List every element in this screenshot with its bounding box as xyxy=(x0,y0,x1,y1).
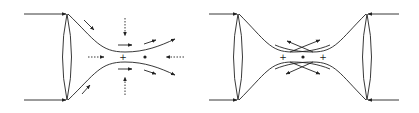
ray-arrow-right-top xyxy=(144,40,156,44)
beam-right-lower xyxy=(275,62,366,100)
single-beam-diagram xyxy=(24,14,184,100)
focus-plus-left: + xyxy=(279,52,287,62)
cross-arrow-top-left xyxy=(287,41,313,52)
lens xyxy=(63,14,72,100)
ray-arrow-bottom-left xyxy=(82,85,90,94)
beam-upper xyxy=(68,14,175,52)
focus-plus-right: + xyxy=(319,52,327,62)
particle-dot xyxy=(143,55,146,58)
particle-dot-center xyxy=(301,55,304,58)
optical-trap-diagram: + + + xyxy=(0,0,419,113)
cross-arrow-top-right xyxy=(290,40,320,52)
beam-left-lower xyxy=(239,62,330,100)
focus-plus-symbol: + xyxy=(119,52,127,62)
cross-arrow-bottom-left xyxy=(286,62,313,74)
lens-right xyxy=(363,14,372,100)
ray-arrow-top-left xyxy=(84,20,94,30)
lens-left xyxy=(234,14,243,100)
beam-left-upper xyxy=(239,14,330,52)
cross-arrow-bottom-right xyxy=(290,62,320,74)
ray-arrow-right-bottom xyxy=(144,70,156,74)
beam-right-upper xyxy=(275,14,366,52)
beam-lower xyxy=(68,62,175,100)
